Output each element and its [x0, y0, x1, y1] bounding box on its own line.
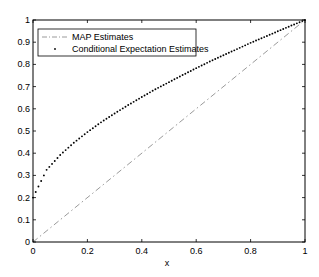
y-tick-label: 0.5 [17, 126, 30, 136]
conditional-expectation-dot [135, 99, 137, 101]
conditional-expectation-dot [154, 88, 156, 90]
conditional-expectation-dot [146, 93, 148, 95]
conditional-expectation-dot [280, 29, 282, 31]
conditional-expectation-dot [51, 163, 53, 165]
conditional-expectation-dot [157, 87, 159, 89]
conditional-expectation-dot [62, 152, 64, 154]
conditional-expectation-dot [73, 142, 75, 144]
y-tick-label: 0.8 [17, 59, 30, 69]
conditional-expectation-dot [288, 26, 290, 28]
conditional-expectation-dot [244, 44, 246, 46]
conditional-expectation-dot [165, 83, 167, 85]
legend-label-conditional: Conditional Expectation Estimates [72, 44, 209, 54]
conditional-expectation-dot [176, 77, 178, 79]
conditional-expectation-dot [103, 120, 105, 122]
conditional-expectation-dot [212, 59, 214, 61]
conditional-expectation-dot [35, 191, 37, 193]
conditional-expectation-dot [269, 34, 271, 36]
conditional-expectation-dot [43, 174, 45, 176]
conditional-expectation-dot [293, 23, 295, 25]
conditional-expectation-dot [119, 109, 121, 111]
conditional-expectation-dot [67, 147, 69, 149]
conditional-expectation-dot [65, 149, 67, 151]
conditional-expectation-dot [116, 111, 118, 113]
y-tick-label: 1 [25, 15, 30, 25]
conditional-expectation-dot [195, 67, 197, 69]
x-axis-label: x [165, 258, 170, 268]
conditional-expectation-dot [190, 70, 192, 72]
conditional-expectation-dot [250, 42, 252, 44]
conditional-expectation-dot [239, 47, 241, 49]
y-tick-label: 0 [25, 237, 30, 247]
conditional-expectation-dot [228, 52, 230, 54]
y-tick-label: 0.9 [17, 37, 30, 47]
x-tick-label: 1 [302, 246, 307, 256]
x-tick-label: 0.4 [136, 246, 149, 256]
conditional-expectation-dot [217, 57, 219, 59]
chart: 00.20.40.60.81 00.10.20.30.40.50.60.70.8… [0, 0, 319, 277]
conditional-expectation-dot [274, 32, 276, 34]
conditional-expectation-dot [187, 71, 189, 73]
conditional-expectation-dot [173, 78, 175, 80]
conditional-expectation-dot [241, 46, 243, 48]
conditional-expectation-dot [160, 85, 162, 87]
conditional-expectation-dot [78, 138, 80, 140]
conditional-expectation-dot [299, 21, 301, 23]
conditional-expectation-dot [76, 140, 78, 142]
conditional-expectation-dot [258, 38, 260, 40]
conditional-expectation-dot [209, 61, 211, 63]
y-tick-label: 0.6 [17, 104, 30, 114]
conditional-expectation-dot [105, 118, 107, 120]
conditional-expectation-dot [163, 84, 165, 86]
conditional-expectation-dot [225, 53, 227, 55]
conditional-expectation-dot [271, 33, 273, 35]
conditional-expectation-dot [198, 66, 200, 68]
conditional-expectation-dot [57, 157, 59, 159]
y-tick-label: 0.3 [17, 170, 30, 180]
conditional-expectation-dot [206, 62, 208, 64]
conditional-expectation-dot [233, 49, 235, 51]
conditional-expectation-dot [220, 56, 222, 58]
y-tick-label: 0.4 [17, 148, 30, 158]
conditional-expectation-dot [144, 95, 146, 97]
y-tick-label: 0.7 [17, 82, 30, 92]
conditional-expectation-dot [46, 169, 48, 171]
conditional-expectation-dot [84, 133, 86, 135]
conditional-expectation-dot [203, 63, 205, 65]
conditional-expectation-dot [231, 51, 233, 53]
conditional-expectation-dot [290, 25, 292, 27]
conditional-expectation-dot [133, 101, 135, 103]
conditional-expectation-dot [201, 65, 203, 67]
conditional-expectation-dot [261, 37, 263, 39]
conditional-expectation-dot [89, 129, 91, 131]
conditional-expectation-dot [59, 154, 61, 156]
conditional-expectation-dot [168, 81, 170, 83]
conditional-expectation-dot [214, 58, 216, 60]
conditional-expectation-dot [247, 43, 249, 45]
conditional-expectation-dot [152, 90, 154, 92]
conditional-expectation-dot [179, 76, 181, 78]
y-tick-label: 0.2 [17, 193, 30, 203]
x-tick-label: 0 [30, 246, 35, 256]
conditional-expectation-dot [95, 125, 97, 127]
legend: MAP Estimates Conditional Expectation Es… [38, 29, 209, 56]
conditional-expectation-dot [222, 54, 224, 56]
conditional-expectation-dot [138, 98, 140, 100]
conditional-expectation-dot [193, 69, 195, 71]
conditional-expectation-dot [184, 73, 186, 75]
x-tick-label: 0.8 [244, 246, 257, 256]
x-tick-label: 0.6 [190, 246, 203, 256]
conditional-expectation-dot [149, 91, 151, 93]
conditional-expectation-dot [182, 74, 184, 76]
conditional-expectation-dot [92, 127, 94, 129]
conditional-expectation-dot [111, 114, 113, 116]
conditional-expectation-dot [37, 186, 39, 188]
conditional-expectation-dot [97, 123, 99, 125]
conditional-expectation-dot [86, 131, 88, 133]
conditional-expectation-dot [108, 116, 110, 118]
conditional-expectation-dot [282, 28, 284, 30]
conditional-expectation-dot [266, 35, 268, 37]
conditional-expectation-dot [48, 166, 50, 168]
conditional-expectation-dot [70, 144, 72, 146]
conditional-expectation-dot [252, 41, 254, 43]
